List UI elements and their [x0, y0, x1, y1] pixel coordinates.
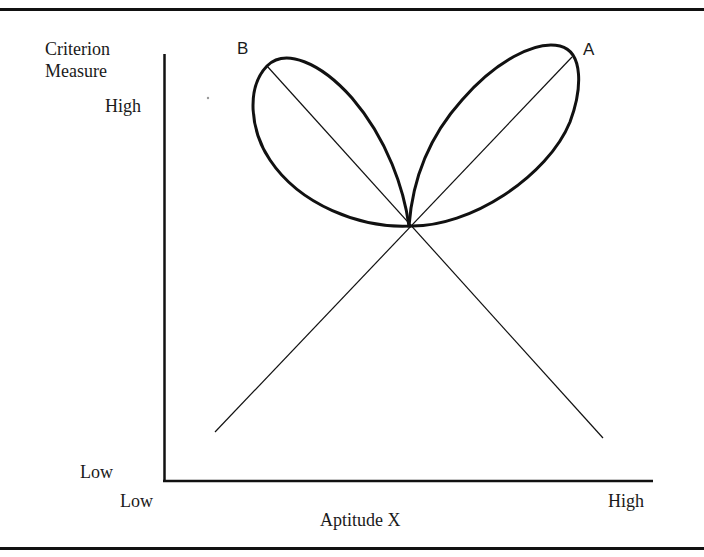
- scatter-ellipse-a: [409, 45, 579, 226]
- diagram-canvas: [0, 0, 704, 557]
- speck-mark: [207, 97, 209, 99]
- regression-line-a: [215, 57, 572, 432]
- scatter-ellipse-b: [253, 58, 409, 226]
- regression-line-b: [267, 66, 603, 438]
